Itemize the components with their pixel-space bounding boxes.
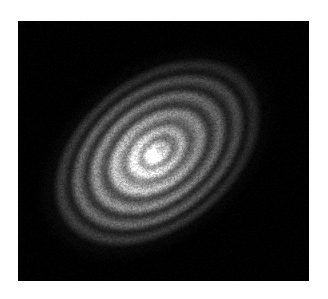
astronomical-image-field [18, 21, 309, 281]
disk-image-canvas [18, 21, 309, 281]
image-page [0, 0, 328, 299]
